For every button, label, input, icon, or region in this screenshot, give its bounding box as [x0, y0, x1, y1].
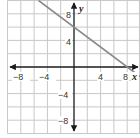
ytick-pos4: 4 — [66, 37, 71, 47]
x-axis-label: x — [131, 71, 137, 82]
xtick-pos4: 4 — [98, 72, 103, 82]
y-axis-label: y — [78, 3, 84, 14]
ytick-pos8: 8 — [66, 10, 71, 20]
xtick-pos8: 8 — [123, 72, 128, 82]
xtick-neg8: −8 — [13, 72, 23, 82]
ytick-neg4: −4 — [58, 90, 68, 100]
xtick-neg4: −4 — [39, 72, 49, 82]
plotted-line — [39, 1, 140, 77]
coordinate-plane: −8 −4 4 8 8 4 −4 −8 y x — [0, 0, 140, 138]
ytick-neg8: −8 — [58, 116, 68, 126]
